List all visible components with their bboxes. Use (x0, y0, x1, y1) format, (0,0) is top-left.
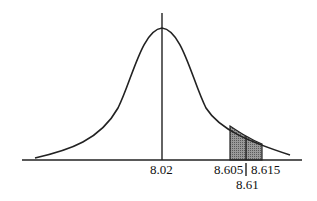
label-mean: 8.02 (150, 163, 173, 176)
label-lower: 8.605 (214, 163, 243, 176)
label-middle: 8.61 (236, 178, 259, 191)
label-upper: 8.615 (251, 163, 280, 176)
